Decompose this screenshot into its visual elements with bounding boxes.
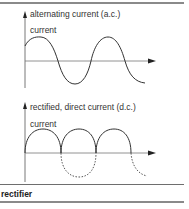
caption-bottom-rule (0, 201, 184, 203)
dc-removed-half-2 (131, 153, 147, 176)
ac-title: alternating current (a.c.) (30, 10, 120, 19)
dc-y-arrow-icon (23, 102, 27, 109)
ac-axis-label: current (30, 26, 56, 35)
ac-x-arrow-icon (148, 59, 156, 64)
ac-sine-wave (25, 37, 145, 84)
caption: rectifier (1, 189, 32, 199)
ac-y-arrow-icon (23, 11, 27, 18)
dc-graph (23, 102, 156, 182)
dc-title: rectified, direct current (d.c.) (30, 103, 136, 112)
dc-hump-3 (96, 129, 131, 153)
dc-axis-label: current (30, 120, 56, 129)
dc-removed-half-1 (61, 153, 96, 177)
dc-hump-2 (61, 129, 96, 153)
dc-hump-1 (25, 129, 61, 153)
ac-graph (23, 11, 156, 88)
caption-top-rule (0, 184, 184, 185)
dc-x-arrow-icon (148, 151, 156, 156)
